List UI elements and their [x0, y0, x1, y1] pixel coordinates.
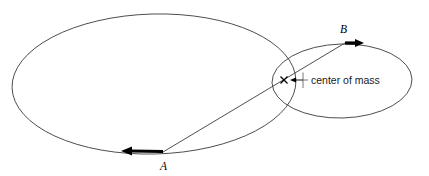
center-of-mass-marker — [281, 77, 288, 84]
body-b-label: B — [340, 23, 347, 35]
large-orbit-ellipse — [10, 10, 298, 157]
orbit-diagram-canvas: A B center of mass — [0, 0, 429, 176]
center-of-mass-label: center of mass — [311, 74, 380, 86]
velocity-arrow-b — [345, 39, 364, 47]
body-a-label: A — [159, 160, 168, 172]
orbit-diagram: A B center of mass — [0, 0, 429, 176]
a-to-b-connector-line — [163, 43, 345, 152]
